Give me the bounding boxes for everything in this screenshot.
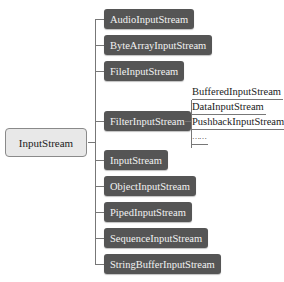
root-node-inputstream: InputStream [5,128,87,157]
children-spine [95,19,96,265]
child-label: ObjectInputStream [110,181,190,192]
connector [95,71,104,72]
subclass-item: PushbackInputStream [192,116,284,130]
connector [95,186,104,187]
child-node: AudioInputStream [104,9,194,29]
child-label: FileInputStream [110,66,178,77]
connector [95,212,104,213]
child-label: FilterInputStream [110,116,185,127]
child-node: PipedInputStream [104,202,192,222]
child-node-filterinputstream: FilterInputStream [104,111,191,131]
child-label: AudioInputStream [110,14,188,25]
connector [95,121,104,122]
connector [95,160,104,161]
child-node: StringBufferInputStream [104,254,221,274]
root-connector [88,142,95,143]
connector [95,238,104,239]
subclass-item-ellipsis: …… [192,131,208,145]
child-label: ByteArrayInputStream [110,40,206,51]
child-node: ByteArrayInputStream [104,35,212,55]
child-node: ObjectInputStream [104,176,196,196]
child-label: StringBufferInputStream [110,259,215,270]
child-node: InputStream [104,150,168,170]
subclass-item: BufferedInputStream [192,86,283,100]
child-label: PipedInputStream [110,207,186,218]
child-label: SequenceInputStream [110,233,202,244]
connector [95,264,104,265]
connector [95,19,104,20]
subclass-item: DataInputStream [192,101,266,115]
child-node: SequenceInputStream [104,228,208,248]
connector [95,45,104,46]
root-label: InputStream [19,137,73,149]
child-node: FileInputStream [104,61,184,81]
child-label: InputStream [110,155,162,166]
